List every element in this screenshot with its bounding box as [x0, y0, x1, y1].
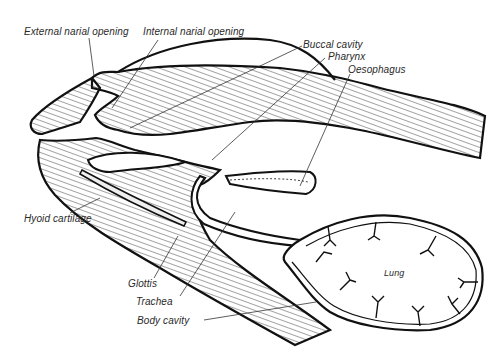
label-hyoid-cartilage: Hyoid cartilage — [24, 213, 92, 224]
snout-tissue — [31, 78, 100, 134]
label-body-cavity: Body cavity — [137, 315, 189, 326]
label-trachea: Trachea — [136, 296, 173, 307]
anatomy-drawing — [0, 0, 501, 350]
oesophagus-tube — [226, 171, 316, 194]
label-lung: Lung — [384, 268, 404, 278]
label-internal-narial-opening: Internal narial opening — [143, 26, 244, 37]
label-oesophagus: Oesophagus — [348, 64, 406, 75]
label-glottis: Glottis — [128, 278, 157, 289]
label-pharynx: Pharynx — [328, 51, 365, 62]
diagram-canvas: External narial opening Internal narial … — [0, 0, 501, 350]
upper-head-tissue — [92, 65, 485, 158]
label-external-narial-opening: External narial opening — [24, 26, 129, 37]
label-buccal-cavity: Buccal cavity — [303, 39, 363, 50]
